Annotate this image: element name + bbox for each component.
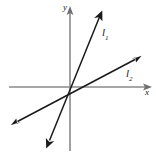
y-axis-group bbox=[67, 6, 74, 151]
coordinate-plane-figure: y x l1 l2 bbox=[0, 0, 156, 157]
line-l2-segment bbox=[18, 60, 136, 122]
line-l2-label: l2 bbox=[126, 68, 133, 82]
line-l2-group bbox=[11, 56, 142, 126]
line-l1-label: l1 bbox=[102, 27, 109, 41]
line-l1-group bbox=[46, 11, 103, 149]
line-l1-segment bbox=[50, 17, 100, 141]
line-l1-label-subscript: 1 bbox=[105, 34, 109, 42]
x-axis-group bbox=[9, 84, 152, 91]
x-axis-label: x bbox=[145, 88, 149, 97]
line-l2-arrowhead-lower-icon bbox=[11, 119, 21, 126]
line-l2-label-subscript: 2 bbox=[129, 75, 133, 83]
y-axis-label: y bbox=[63, 3, 67, 12]
line-l2-arrowhead-upper-icon bbox=[131, 56, 141, 63]
